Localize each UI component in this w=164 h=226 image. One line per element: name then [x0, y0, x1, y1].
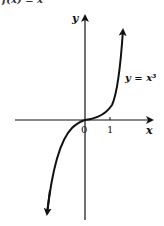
cubic-graph: y x 0 1 y = x³ — [0, 0, 164, 226]
curve-bottom-arrow — [47, 190, 50, 214]
y-axis-label: y — [71, 12, 80, 25]
x-axis-label: x — [145, 124, 153, 137]
origin-label: 0 — [81, 124, 87, 135]
tick-label-1: 1 — [107, 124, 113, 135]
curve-label: y = x³ — [124, 72, 157, 83]
